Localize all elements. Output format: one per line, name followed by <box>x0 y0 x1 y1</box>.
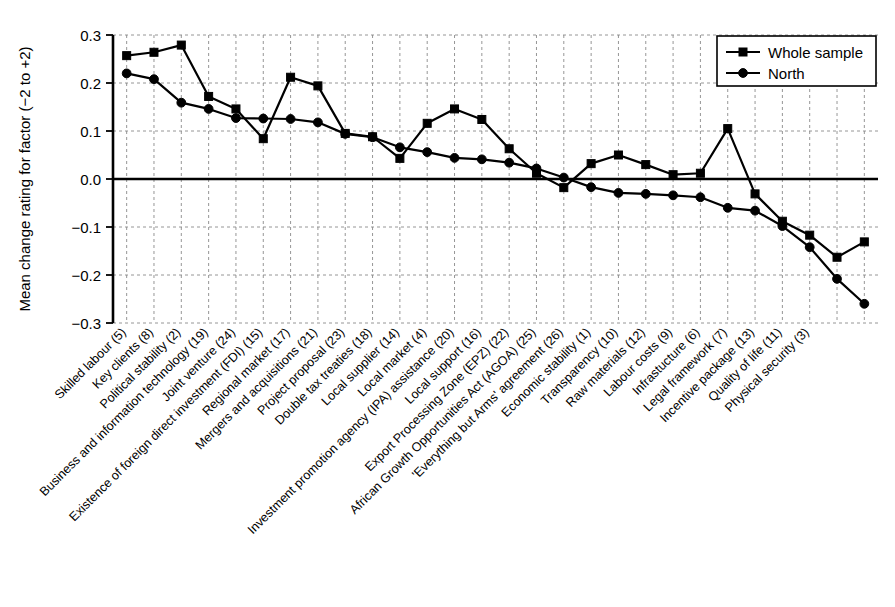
data-point-marker <box>860 238 868 246</box>
data-point-marker <box>259 135 267 143</box>
data-point-marker <box>805 243 814 252</box>
y-tick-label: −0.2 <box>71 267 101 284</box>
chart-figure: 0.30.20.10.0−0.1−0.2−0.3 Mean change rat… <box>0 0 895 607</box>
data-point-marker <box>669 191 678 200</box>
y-axis-label: Mean change rating for factor (−2 to +2) <box>16 46 33 311</box>
y-axis-ticks: 0.30.20.10.0−0.1−0.2−0.3 <box>71 27 113 332</box>
data-point-marker <box>696 193 705 202</box>
data-point-marker <box>204 105 213 114</box>
data-point-marker <box>696 169 704 177</box>
data-point-marker <box>505 158 514 167</box>
data-point-marker <box>505 145 513 153</box>
data-point-marker <box>341 129 350 138</box>
data-point-marker <box>314 118 323 127</box>
data-point-marker <box>614 151 622 159</box>
data-point-marker <box>122 69 131 78</box>
data-point-marker <box>751 190 759 198</box>
data-point-marker <box>641 189 650 198</box>
data-point-marker <box>751 206 760 215</box>
y-axis-label-text: Mean change rating for factor (−2 to +2) <box>16 46 33 311</box>
data-point-marker <box>423 119 431 127</box>
data-point-marker <box>532 164 541 173</box>
data-point-marker <box>232 105 240 113</box>
data-point-marker <box>287 73 295 81</box>
data-point-marker <box>150 75 159 84</box>
data-point-marker <box>150 48 158 56</box>
data-point-marker <box>860 299 869 308</box>
data-point-marker <box>396 154 404 162</box>
data-point-marker <box>587 160 595 168</box>
y-tick-label: 0.3 <box>80 27 101 44</box>
y-tick-label: 0.1 <box>80 123 101 140</box>
line-chart: 0.30.20.10.0−0.1−0.2−0.3 Mean change rat… <box>0 0 895 607</box>
y-tick-label: −0.1 <box>71 219 101 236</box>
data-point-marker <box>477 155 486 164</box>
data-point-marker <box>614 189 623 198</box>
data-point-marker <box>833 253 841 261</box>
data-point-marker <box>642 161 650 169</box>
y-tick-label: −0.3 <box>71 315 101 332</box>
data-point-marker <box>123 52 131 60</box>
data-point-marker <box>395 143 404 152</box>
data-point-marker <box>177 41 185 49</box>
data-point-marker <box>205 92 213 100</box>
data-point-marker <box>724 125 732 133</box>
data-point-marker <box>177 98 186 107</box>
data-point-marker <box>232 114 241 123</box>
data-point-marker <box>368 133 377 142</box>
data-point-marker <box>806 231 814 239</box>
chart-legend: Whole sampleNorth <box>717 36 876 86</box>
data-point-marker <box>723 203 732 212</box>
x-axis-category-labels: Skilled labour (5)Key clients (8)Politic… <box>37 325 812 537</box>
legend-marker <box>739 48 747 56</box>
data-point-marker <box>259 114 268 123</box>
data-point-marker <box>560 184 568 192</box>
data-point-marker <box>450 153 459 162</box>
data-point-marker <box>478 115 486 123</box>
data-point-marker <box>833 274 842 283</box>
data-point-marker <box>559 173 568 182</box>
legend-label: North <box>768 65 805 82</box>
data-point-marker <box>286 115 295 124</box>
data-point-marker <box>669 171 677 179</box>
legend-label: Whole sample <box>768 44 863 61</box>
data-point-marker <box>587 183 596 192</box>
legend-marker <box>739 69 748 78</box>
data-point-marker <box>451 105 459 113</box>
data-point-marker <box>778 222 787 231</box>
y-tick-label: 0.2 <box>80 75 101 92</box>
data-point-marker <box>423 148 432 157</box>
data-point-marker <box>314 82 322 90</box>
y-tick-label: 0.0 <box>80 171 101 188</box>
